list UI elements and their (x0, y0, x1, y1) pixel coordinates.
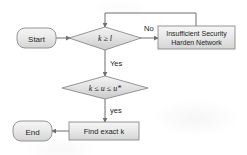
edge-label-no: No (144, 24, 154, 33)
node-find-exact-k-label: Find exact k (84, 127, 125, 136)
edge-label-yes-lower: yes (110, 106, 122, 115)
node-find-exact-k[interactable]: Find exact k (69, 122, 139, 140)
node-end[interactable]: End (13, 121, 52, 141)
node-insufficient-security[interactable]: Insufficient Security Harden Network (158, 26, 235, 49)
flowchart-svg: Start k ≥ l Insufficient Security Harden… (0, 0, 247, 155)
node-end-label: End (25, 128, 39, 137)
node-decision-k-ge-l[interactable]: k ≥ l (69, 27, 141, 50)
node-decision-k-ge-l-label: k ≥ l (98, 34, 113, 43)
node-decision-k-le-u[interactable]: k ≤ u ≤ u* (62, 76, 148, 99)
node-start[interactable]: Start (17, 28, 56, 48)
node-insufficient-security-line2: Harden Network (171, 39, 222, 46)
node-insufficient-security-line1: Insufficient Security (166, 30, 227, 38)
flowchart-canvas: Start k ≥ l Insufficient Security Harden… (0, 0, 247, 155)
edge-label-yes-upper: Yes (110, 59, 122, 68)
node-decision-k-le-u-label: k ≤ u ≤ u* (89, 84, 121, 93)
node-start-label: Start (28, 35, 46, 44)
